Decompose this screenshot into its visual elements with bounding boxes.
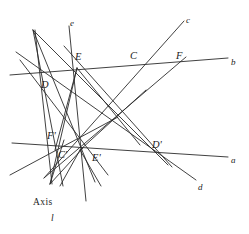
line-D-to-Ep: [33, 30, 63, 186]
axis-fan-line-2: [50, 140, 64, 184]
point-label-C: C: [130, 51, 137, 62]
point-label-Cp: C': [58, 150, 67, 161]
line-label-e: e: [70, 19, 74, 28]
line-a: [12, 143, 228, 157]
line-b: [10, 58, 228, 75]
Ep-fan-line-up-right: [80, 90, 146, 150]
axis-caption-label: Axis: [33, 198, 53, 208]
E-fan-line-down-left: [55, 68, 77, 150]
diagram-lines-group: [10, 21, 228, 201]
point-label-Ep: E': [92, 153, 101, 164]
point-label-Fp: F': [47, 131, 56, 142]
line-label-b: b: [231, 58, 236, 67]
geometry-figure: DECFF'C'E'D' abcde Axis l: [0, 0, 249, 234]
point-label-F: F: [176, 51, 182, 62]
line-label-c: c: [186, 16, 190, 25]
point-label-D: D: [41, 80, 49, 91]
line-through-E-C-Dp: [33, 30, 168, 165]
point-label-E: E: [75, 52, 81, 63]
line-label-d: d: [198, 183, 203, 192]
line-label-a: a: [231, 156, 236, 165]
point-label-Dp: D': [152, 140, 162, 151]
axis-line-l-label: l: [51, 214, 54, 224]
